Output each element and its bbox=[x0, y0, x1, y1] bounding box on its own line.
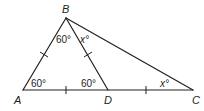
vertex-label-c: C bbox=[192, 94, 200, 106]
vertex-label-b: B bbox=[62, 3, 69, 15]
angle-label-abd: 60° bbox=[56, 34, 71, 45]
angle-label-dbc: x° bbox=[79, 34, 89, 45]
angle-label-a: 60° bbox=[31, 78, 46, 89]
tick-mark-ab bbox=[40, 52, 48, 57]
angle-label-c: x° bbox=[159, 78, 169, 89]
angle-label-bda: 60° bbox=[81, 78, 96, 89]
vertex-label-d: D bbox=[104, 94, 112, 106]
triangle-diagram: B A D C 60° x° 60° 60° x° bbox=[0, 0, 204, 111]
vertex-label-a: A bbox=[13, 94, 21, 106]
